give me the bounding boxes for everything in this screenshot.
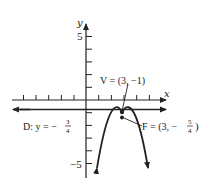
y-tick-label-neg5: −5 [70,158,82,170]
svg-text:4: 4 [188,127,192,135]
svg-text:3: 3 [66,118,70,126]
y-tick-label-5: 5 [77,30,83,42]
focus-point [120,116,124,120]
parabola-curve-right [122,107,148,168]
y-axis-label: y [76,17,83,28]
parabola-curve [97,107,122,168]
focus-leader [124,118,142,126]
svg-text:4: 4 [66,127,70,135]
svg-text:F = (3, −: F = (3, − [142,121,178,133]
svg-text:): ) [195,120,199,133]
directrix-label: D: y = − 3 4 [23,118,71,135]
svg-text:5: 5 [188,118,192,126]
x-axis-label: x [164,88,170,99]
svg-text:D: y = −: D: y = − [23,121,57,132]
focus-label: F = (3, − 5 4 ) [142,118,199,135]
vertex-label: V = (3, −1) [100,75,145,87]
parabola-diagram: y x 5 −5 V = (3, −1) D: y = − 3 4 F = (3… [0,0,210,188]
